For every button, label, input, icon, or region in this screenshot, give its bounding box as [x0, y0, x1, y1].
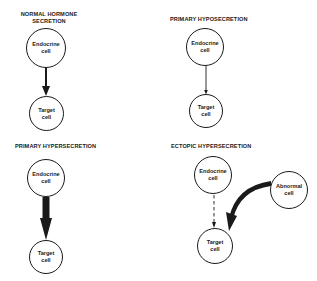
- abnormal-cell-node: Abnormal cell: [270, 171, 308, 209]
- title-line: PRIMARY HYPERSECRETION: [15, 143, 96, 150]
- hypersecretion-arrow: [40, 197, 52, 240]
- cell-label: Endocrine: [191, 40, 218, 47]
- title-line: NORMAL HORMONE: [14, 11, 84, 18]
- endocrine-cell-node: Endocrine cell: [27, 159, 65, 197]
- ectopic-abnormal-curved-arrow: [226, 181, 271, 231]
- cell-label: cell: [41, 178, 50, 185]
- target-cell-node: Target cell: [29, 240, 63, 274]
- cell-label: Target: [198, 104, 215, 111]
- title-line: PRIMARY HYPOSECRETION: [170, 16, 248, 23]
- cell-label: Target: [38, 107, 55, 114]
- endocrine-cell-node: Endocrine cell: [26, 28, 66, 68]
- title-line: ECTOPIC HYPERSECRETION: [171, 143, 251, 150]
- cell-label: Target: [207, 239, 224, 246]
- cell-label: cell: [41, 257, 50, 264]
- endocrine-cell-node: Endocrine cell: [186, 28, 224, 66]
- cell-label: cell: [208, 175, 217, 182]
- title-line: SECRETION: [14, 18, 84, 25]
- ectopic-endocrine-dashed-arrow: [212, 195, 216, 228]
- panel-title-primary-hyposecretion: PRIMARY HYPOSECRETION: [170, 16, 248, 23]
- endocrine-cell-node: Endocrine cell: [194, 156, 232, 194]
- hyposecretion-arrow: [204, 66, 208, 95]
- panel-title-normal-secretion: NORMAL HORMONE SECRETION: [14, 11, 84, 24]
- normal-secretion-arrow: [42, 67, 50, 96]
- target-cell-node: Target cell: [197, 228, 233, 264]
- cell-label: Endocrine: [32, 41, 59, 48]
- cell-label: Abnormal: [276, 183, 302, 190]
- cell-label: Endocrine: [199, 168, 226, 175]
- cell-label: cell: [284, 190, 293, 197]
- cell-label: cell: [41, 48, 50, 55]
- cell-label: Endocrine: [32, 171, 59, 178]
- panel-title-ectopic-hypersecretion: ECTOPIC HYPERSECRETION: [171, 143, 251, 150]
- panel-title-primary-hypersecretion: PRIMARY HYPERSECRETION: [15, 143, 96, 150]
- target-cell-node: Target cell: [29, 96, 64, 131]
- cell-label: Target: [38, 250, 55, 257]
- target-cell-node: Target cell: [189, 94, 223, 128]
- cell-label: cell: [210, 246, 219, 253]
- cell-label: cell: [200, 47, 209, 54]
- cell-label: cell: [201, 111, 210, 118]
- cell-label: cell: [42, 114, 51, 121]
